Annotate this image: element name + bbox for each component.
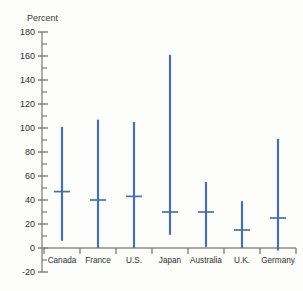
range-bar-australia [198,182,214,247]
x-axis-category-label-canada: Canada [48,256,77,265]
y-axis-tick-label: 80 [25,147,35,157]
x-axis-category-label-germany: Germany [261,256,296,265]
chart-container: Percent 180160140120100806040200-20 Cana… [0,0,303,291]
x-axis-category-label-france: France [85,256,111,265]
range-bar-japan [162,55,178,235]
range-bar-france [90,120,106,248]
y-axis-tick-label: 100 [20,123,35,133]
y-axis-tick-label: 0 [30,243,35,253]
y-axis-tick-label: 160 [20,51,35,61]
range-bar-canada [54,127,70,241]
x-axis-category-label-australia: Australia [190,256,222,265]
range-bar-us [126,122,142,248]
y-axis-tick-label: 140 [20,75,35,85]
range-chart: Percent 180160140120100806040200-20 Cana… [0,0,303,291]
y-axis-tick-label: 180 [20,27,35,37]
y-axis-tick-label: 20 [25,219,35,229]
x-axis-category-label-us: U.S. [126,256,142,265]
y-axis-tick-label: 40 [25,195,35,205]
range-bar-uk [234,201,250,248]
x-axis-category-label-japan: Japan [159,256,182,265]
x-axis-category-label-uk: U.K. [234,256,250,265]
range-bar-germany [270,139,286,251]
y-axis-title: Percent [27,13,59,23]
y-axis-tick-label: 60 [25,171,35,181]
y-axis-tick-label: 120 [20,99,35,109]
y-axis-tick-label: -20 [22,267,35,277]
